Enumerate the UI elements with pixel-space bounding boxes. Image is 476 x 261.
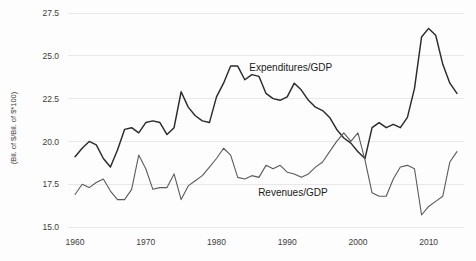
chart-container: 27.525.022.520.017.515.0 196019701980199… (0, 0, 476, 261)
series-line-expenditures-gdp (75, 28, 457, 167)
x-tick-label: 2000 (348, 237, 367, 247)
series-line-revenues-gdp (75, 133, 457, 215)
y-tick-label: 15.0 (42, 222, 59, 232)
x-tick-label: 2010 (419, 237, 438, 247)
x-tick-label: 1990 (278, 237, 297, 247)
y-tick-label: 25.0 (42, 51, 59, 61)
x-tick-label: 1960 (66, 237, 85, 247)
y-tick-label: 17.5 (42, 179, 59, 189)
x-axis-tick-labels: 196019701980199020002010 (66, 237, 439, 247)
y-tick-label: 22.5 (42, 94, 59, 104)
series-label-expenditures-gdp: Expenditures/GDP (249, 62, 332, 73)
line-chart: 27.525.022.520.017.515.0 196019701980199… (0, 0, 476, 261)
y-tick-label: 27.5 (42, 8, 59, 18)
series-label-revenues-gdp: Revenues/GDP (258, 187, 328, 198)
y-tick-label: 20.0 (42, 137, 59, 147)
y-axis-tick-labels: 27.525.022.520.017.515.0 (42, 8, 59, 232)
x-tick-label: 1980 (207, 237, 226, 247)
x-tick-label: 1970 (136, 237, 155, 247)
y-axis-title: (Bil. of $/Bil. of $*100) (9, 91, 18, 164)
